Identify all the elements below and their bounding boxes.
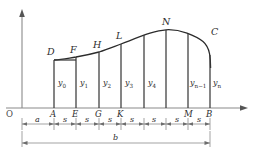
curve-point-label-d: D xyxy=(47,47,55,57)
base-point-label-a: A xyxy=(50,110,56,119)
ordinate-label-y3: y3 xyxy=(125,79,133,89)
y-axis xyxy=(19,9,25,108)
dimension-label-s-1: s xyxy=(63,116,67,124)
curve-point-label-f: F xyxy=(70,45,77,55)
dimension-label-s-7: s xyxy=(197,116,201,124)
ordinate-label-y2: y2 xyxy=(103,79,111,89)
ordinate-label-y1: y1 xyxy=(80,79,88,89)
curve-point-label-h: H xyxy=(93,40,101,50)
function-curve xyxy=(54,30,211,68)
base-point-label-e: E xyxy=(72,110,78,119)
dimension-label-s-2: s xyxy=(85,116,89,124)
integration-strips-figure: O D F H L N C A E G K M B y0 y1 y2 y3 y4… xyxy=(0,0,255,154)
base-point-label-b: B xyxy=(206,110,212,119)
curve-point-label-n: N xyxy=(162,17,170,27)
curve-point-label-c: C xyxy=(211,27,218,37)
ordinate-label-yn: yn xyxy=(213,79,221,89)
dimension-label-s-3: s xyxy=(108,116,112,124)
segment-dimension-row xyxy=(22,118,210,130)
dimension-label-b: b xyxy=(113,134,118,142)
dimension-label-s-5: s xyxy=(152,116,156,124)
ordinate-label-y4: y4 xyxy=(148,79,156,89)
base-point-label-g: G xyxy=(95,110,102,119)
origin-label: O xyxy=(6,110,13,119)
dimension-label-s-6: s xyxy=(175,116,179,124)
base-point-label-k: K xyxy=(117,110,123,119)
base-point-label-m: M xyxy=(184,110,193,119)
ordinate-label-yn-1: yn−1 xyxy=(190,79,206,89)
dimension-label-a: a xyxy=(35,116,40,124)
dimension-label-s-4: s xyxy=(130,116,134,124)
ordinate-label-y0: y0 xyxy=(58,79,66,89)
figure-canvas xyxy=(0,0,255,154)
ordinate-lines xyxy=(54,30,210,108)
curve-point-label-l: L xyxy=(116,31,122,41)
